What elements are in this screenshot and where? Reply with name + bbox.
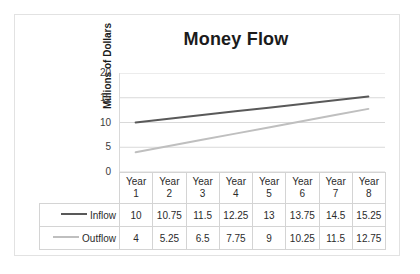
header-line: Year — [292, 176, 312, 187]
table-cell: 12.75 — [352, 227, 385, 250]
series-lines-svg — [119, 73, 385, 172]
header-line: Year — [226, 176, 246, 187]
series-line-inflow — [136, 97, 369, 123]
legend-label: Outflow — [82, 233, 116, 244]
table-cell: 12.25 — [219, 204, 252, 227]
header-line: 4 — [233, 188, 239, 199]
table-cell: 10.25 — [286, 227, 319, 250]
header-line: 2 — [167, 188, 173, 199]
header-line: Year — [193, 176, 213, 187]
y-axis-tick-label: 20 — [85, 68, 111, 78]
chart-data-table: Year1Year2Year3Year4Year5Year6Year7Year8… — [39, 172, 386, 250]
table-row: Outflow45.256.57.75910.2511.512.75 — [40, 227, 386, 250]
header-line: 3 — [200, 188, 206, 199]
table-column-header: Year6 — [286, 173, 319, 204]
header-line: 7 — [333, 188, 339, 199]
table-cell: 10 — [120, 204, 153, 227]
header-line: 8 — [366, 188, 372, 199]
header-line: 5 — [266, 188, 272, 199]
table-column-header: Year7 — [319, 173, 352, 204]
legend-line-swatch-icon — [53, 236, 79, 238]
table-cell: 15.25 — [352, 204, 385, 227]
table-cell: 9 — [253, 227, 286, 250]
table-cell: 11.5 — [319, 227, 352, 250]
legend-line-swatch-icon — [61, 213, 87, 215]
table-cell: 4 — [120, 227, 153, 250]
table-column-header: Year4 — [219, 173, 252, 204]
legend-entry-outflow: Outflow — [40, 227, 120, 250]
table-cell: 11.5 — [186, 204, 219, 227]
table-cell: 13 — [253, 204, 286, 227]
y-axis-tick-label: 15 — [85, 93, 111, 103]
header-line: 1 — [133, 188, 139, 199]
legend-entry-inflow: Inflow — [40, 204, 120, 227]
header-line: Year — [359, 176, 379, 187]
table-column-header: Year2 — [153, 173, 186, 204]
header-line: Year — [126, 176, 146, 187]
table-column-header: Year1 — [120, 173, 153, 204]
y-axis-tick-label: 10 — [85, 118, 111, 128]
header-line: Year — [159, 176, 179, 187]
table-cell: 7.75 — [219, 227, 252, 250]
chart-frame: Money Flow Millions of Dollars 05101520 … — [14, 14, 400, 256]
table-column-header: Year8 — [352, 173, 385, 204]
y-axis-tick-label: 5 — [85, 142, 111, 152]
table-cell: 10.75 — [153, 204, 186, 227]
table-header-row: Year1Year2Year3Year4Year5Year6Year7Year8 — [40, 173, 386, 204]
table-cell: 14.5 — [319, 204, 352, 227]
series-line-outflow — [136, 109, 369, 152]
header-line: 6 — [300, 188, 306, 199]
table-row: Inflow1010.7511.512.251313.7514.515.25 — [40, 204, 386, 227]
table-corner-cell — [40, 173, 120, 204]
header-line: Year — [326, 176, 346, 187]
table-column-header: Year5 — [253, 173, 286, 204]
table-cell: 6.5 — [186, 227, 219, 250]
table-column-header: Year3 — [186, 173, 219, 204]
table-cell: 13.75 — [286, 204, 319, 227]
header-line: Year — [259, 176, 279, 187]
plot-lines — [119, 73, 385, 172]
table-cell: 5.25 — [153, 227, 186, 250]
legend-label: Inflow — [90, 210, 116, 221]
